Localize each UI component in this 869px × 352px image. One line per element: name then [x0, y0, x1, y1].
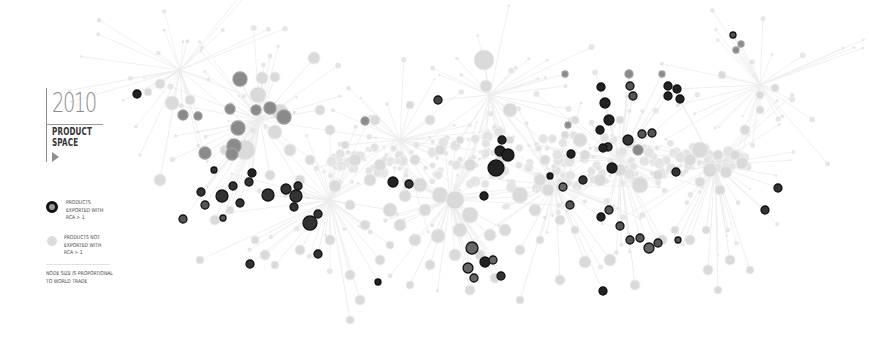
product-node[interactable]: [594, 174, 606, 186]
product-node-rca[interactable]: [245, 178, 253, 186]
product-node[interactable]: [616, 116, 624, 124]
product-node-rca[interactable]: [281, 184, 291, 194]
product-node-rca[interactable]: [607, 163, 617, 173]
product-node[interactable]: [632, 177, 648, 193]
product-node[interactable]: [503, 103, 517, 117]
product-node-rca[interactable]: [616, 222, 624, 230]
product-node-rca[interactable]: [562, 71, 568, 77]
product-node[interactable]: [756, 106, 764, 114]
product-node[interactable]: [345, 270, 355, 280]
play-icon[interactable]: [52, 152, 59, 162]
product-node-rca[interactable]: [644, 243, 654, 253]
product-node[interactable]: [295, 245, 305, 255]
product-node[interactable]: [580, 150, 590, 160]
product-node[interactable]: [449, 249, 461, 261]
product-node[interactable]: [305, 155, 315, 165]
product-node[interactable]: [364, 174, 376, 186]
product-node-rca[interactable]: [225, 104, 235, 114]
product-node[interactable]: [325, 235, 335, 245]
product-node-rca[interactable]: [626, 82, 634, 90]
product-node-rca[interactable]: [600, 98, 610, 108]
product-node-rca[interactable]: [761, 206, 769, 214]
product-node[interactable]: [284, 144, 296, 156]
product-node-rca[interactable]: [636, 234, 644, 242]
product-node-rca[interactable]: [314, 210, 322, 218]
product-node[interactable]: [736, 157, 748, 169]
product-node[interactable]: [571, 226, 579, 234]
product-node[interactable]: [370, 115, 380, 125]
product-node[interactable]: [715, 185, 725, 195]
product-node[interactable]: [251, 236, 259, 244]
product-node[interactable]: [540, 155, 550, 165]
product-node-rca[interactable]: [638, 130, 646, 138]
product-node[interactable]: [345, 200, 355, 210]
product-node[interactable]: [155, 79, 165, 89]
product-node-rca[interactable]: [629, 92, 637, 100]
product-node[interactable]: [671, 226, 679, 234]
product-node[interactable]: [685, 235, 695, 245]
product-node-rca[interactable]: [248, 169, 256, 177]
product-node[interactable]: [386, 241, 394, 249]
product-node-rca[interactable]: [178, 110, 188, 120]
product-node-rca[interactable]: [659, 71, 665, 77]
product-space-network[interactable]: [0, 0, 869, 352]
product-node[interactable]: [349, 154, 361, 166]
product-node[interactable]: [419, 204, 431, 216]
product-node-rca[interactable]: [246, 260, 254, 268]
product-node[interactable]: [355, 295, 365, 305]
product-node-rca[interactable]: [434, 96, 442, 104]
product-node[interactable]: [604, 254, 616, 266]
product-node-rca[interactable]: [774, 184, 782, 192]
product-node[interactable]: [506, 136, 514, 144]
product-node-rca[interactable]: [470, 274, 478, 282]
product-node-rca[interactable]: [664, 82, 672, 90]
product-node-rca[interactable]: [216, 190, 228, 202]
product-node[interactable]: [573, 133, 587, 147]
product-node-rca[interactable]: [480, 257, 490, 267]
product-node-rca[interactable]: [626, 236, 634, 244]
product-node-rca[interactable]: [489, 256, 497, 264]
product-node[interactable]: [154, 174, 166, 186]
product-node-rca[interactable]: [733, 47, 739, 53]
product-node[interactable]: [692, 142, 708, 158]
product-node-rca[interactable]: [673, 85, 681, 93]
product-node[interactable]: [653, 170, 663, 180]
product-node-rca[interactable]: [294, 182, 302, 190]
product-node[interactable]: [360, 220, 370, 230]
product-node[interactable]: [480, 80, 492, 92]
product-node-rca[interactable]: [633, 145, 643, 155]
product-node-rca[interactable]: [605, 206, 613, 214]
product-node[interactable]: [702, 226, 710, 234]
product-node[interactable]: [484, 229, 496, 241]
product-node-rca[interactable]: [672, 168, 680, 176]
product-node[interactable]: [250, 87, 266, 103]
product-node[interactable]: [630, 280, 640, 290]
product-node-rca[interactable]: [233, 72, 247, 86]
product-node[interactable]: [256, 72, 268, 84]
product-node[interactable]: [308, 52, 320, 64]
product-node[interactable]: [555, 275, 565, 285]
product-node-rca[interactable]: [463, 263, 473, 273]
product-node-rca[interactable]: [599, 144, 607, 152]
product-node-rca[interactable]: [648, 129, 656, 137]
product-node-rca[interactable]: [497, 272, 505, 280]
product-node-rca[interactable]: [566, 201, 574, 209]
product-node-rca[interactable]: [314, 250, 322, 258]
product-node-rca[interactable]: [226, 148, 238, 160]
product-node-rca[interactable]: [220, 215, 226, 221]
product-node[interactable]: [383, 203, 397, 217]
product-node-rca[interactable]: [599, 287, 607, 295]
product-node-rca[interactable]: [388, 177, 398, 187]
product-node-rca[interactable]: [231, 121, 245, 135]
product-node-rca[interactable]: [236, 199, 244, 207]
product-node[interactable]: [341, 141, 349, 149]
product-node-rca[interactable]: [194, 112, 202, 120]
product-node[interactable]: [446, 191, 464, 209]
product-node[interactable]: [516, 296, 524, 304]
product-node[interactable]: [725, 255, 735, 265]
product-node-rca[interactable]: [664, 92, 672, 100]
product-node-rca[interactable]: [547, 173, 553, 179]
product-node[interactable]: [260, 250, 270, 260]
product-node[interactable]: [431, 229, 445, 243]
product-node[interactable]: [529, 204, 541, 216]
